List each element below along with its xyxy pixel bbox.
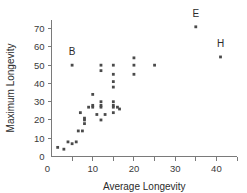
- y-tick-label: 10: [34, 133, 45, 144]
- data-point: [153, 64, 156, 67]
- data-point: [118, 108, 121, 111]
- point-annotations: BEH: [69, 8, 224, 57]
- data-point: [79, 111, 82, 114]
- data-point-series: [56, 25, 222, 150]
- data-point: [83, 117, 86, 120]
- y-tick-label: 60: [34, 41, 45, 52]
- data-point: [62, 148, 65, 151]
- annotation-label-e: E: [192, 8, 199, 19]
- data-point: [133, 73, 136, 76]
- data-point: [112, 73, 115, 76]
- data-point: [83, 122, 86, 125]
- data-point: [75, 140, 78, 143]
- data-point: [91, 104, 94, 107]
- data-point: [133, 64, 136, 67]
- y-tick-label: 30: [34, 96, 45, 107]
- data-point: [100, 100, 103, 103]
- data-point: [81, 130, 84, 133]
- data-point: [100, 69, 103, 72]
- x-tick-label: 40: [211, 163, 222, 174]
- data-point: [56, 146, 59, 149]
- y-axis-tick-labels: 010203040506070: [34, 23, 45, 162]
- y-tick-label: 50: [34, 60, 45, 71]
- x-tick-label: 20: [129, 163, 140, 174]
- data-point: [87, 106, 90, 109]
- y-tick-label: 20: [34, 114, 45, 125]
- x-axis-tick-labels: 010203040: [45, 163, 222, 174]
- data-point: [91, 93, 94, 96]
- y-tick-label: 0: [39, 151, 44, 162]
- data-point: [133, 56, 136, 59]
- y-axis-ticks: [48, 29, 52, 139]
- axes-group: [52, 20, 238, 157]
- x-tick-label: 0: [45, 163, 50, 174]
- data-point: [71, 64, 74, 67]
- data-point: [77, 130, 80, 133]
- data-point: [100, 106, 103, 109]
- annotation-label-h: H: [217, 38, 224, 49]
- data-point: [112, 86, 115, 89]
- y-tick-label: 40: [34, 78, 45, 89]
- data-point: [71, 142, 74, 145]
- data-point: [112, 100, 115, 103]
- scatter-chart-svg: 010203040506070 010203040 BEH Average Lo…: [0, 0, 247, 193]
- data-point: [112, 111, 115, 114]
- y-tick-label: 70: [34, 23, 45, 34]
- x-tick-label: 30: [170, 163, 181, 174]
- data-point: [100, 64, 103, 67]
- scatter-plot-screenshot: 010203040506070 010203040 BEH Average Lo…: [0, 0, 247, 193]
- data-point: [112, 80, 115, 83]
- annotation-label-b: B: [69, 46, 76, 57]
- data-point: [100, 119, 103, 122]
- x-axis-ticks: [72, 157, 237, 161]
- x-axis-title: Average Longevity: [103, 181, 186, 192]
- y-axis-title: Maximum Longevity: [5, 44, 16, 133]
- data-point: [194, 25, 197, 28]
- data-point: [67, 140, 70, 143]
- data-point: [95, 113, 98, 116]
- data-point: [112, 64, 115, 67]
- chart-canvas: 010203040506070 010203040 BEH Average Lo…: [0, 0, 247, 193]
- x-tick-label: 10: [87, 163, 98, 174]
- data-point: [112, 106, 115, 109]
- data-point: [219, 56, 222, 59]
- data-point: [104, 113, 107, 116]
